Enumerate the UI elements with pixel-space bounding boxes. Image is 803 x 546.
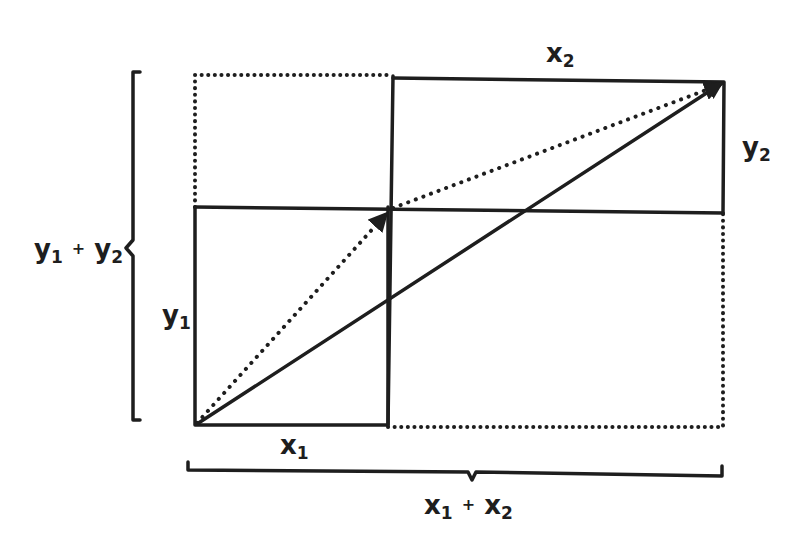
label-y-sum-b: y <box>94 234 111 264</box>
middle-vertical-line <box>388 76 393 425</box>
label-y-sum: y1 + y2 <box>34 236 123 266</box>
brace-x-sum <box>188 462 722 480</box>
brace-y-sum <box>126 72 140 420</box>
label-x1-sub: 1 <box>297 443 309 463</box>
label-x-sum-b: x <box>484 490 501 520</box>
label-y-sum-a-sub: 1 <box>51 247 63 267</box>
label-y1-base: y <box>162 300 179 330</box>
label-x2-base: x <box>546 38 563 68</box>
label-y1: y1 <box>162 302 191 332</box>
label-x1-base: x <box>280 430 297 460</box>
label-x-sum-a-sub: 1 <box>441 503 453 523</box>
label-x-sum-b-sub: 2 <box>501 503 513 523</box>
label-x2-sub: 2 <box>563 51 575 71</box>
label-x2: x2 <box>546 40 575 70</box>
label-y1-sub: 1 <box>179 313 191 333</box>
vector-addition-diagram <box>0 0 803 546</box>
label-y-sum-op: + <box>72 239 85 258</box>
label-x1: x1 <box>280 432 309 462</box>
dotted-rect-top-left <box>195 75 393 207</box>
vector-sum-solid-arrow <box>197 83 722 424</box>
middle-horizontal-line <box>195 207 723 213</box>
label-y2: y2 <box>742 134 771 164</box>
label-y2-base: y <box>742 132 759 162</box>
label-y2-sub: 2 <box>759 145 771 165</box>
label-y-sum-b-sub: 2 <box>111 247 123 267</box>
label-x-sum-op: + <box>462 495 475 514</box>
label-y-sum-a: y <box>34 234 51 264</box>
label-x-sum-a: x <box>424 490 441 520</box>
label-x-sum: x1 + x2 <box>424 492 513 522</box>
dotted-rect-bottom-right <box>388 214 723 427</box>
